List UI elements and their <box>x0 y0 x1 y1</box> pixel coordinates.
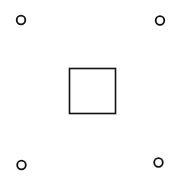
corner-circle-top-left <box>17 16 26 25</box>
diagram-canvas <box>0 0 178 186</box>
corner-circle-top-right <box>156 16 165 25</box>
center-square <box>70 69 116 114</box>
corner-circle-bottom-left <box>17 161 26 170</box>
corner-circle-bottom-right <box>154 158 163 167</box>
